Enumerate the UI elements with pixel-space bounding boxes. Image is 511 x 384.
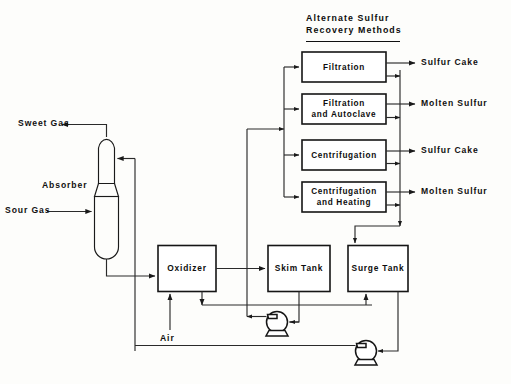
box-label-centrifugation-heating-line1: Centrifugation bbox=[311, 186, 377, 197]
box-label-filtration: Filtration bbox=[302, 52, 386, 82]
equipment-label-oxidizer: Oxidizer bbox=[158, 245, 216, 291]
pump-skim-tank[interactable] bbox=[266, 312, 288, 337]
process-flow-diagram: Alternate Sulfur Recovery Methods Filtra… bbox=[0, 0, 511, 384]
pump-skim-discharge-nozzle bbox=[268, 315, 278, 319]
equipment-label-skim-tank: Skim Tank bbox=[268, 245, 330, 291]
equipment-label-surge-tank: Surge Tank bbox=[348, 245, 408, 291]
pump-surge-discharge-nozzle bbox=[357, 344, 367, 348]
box-label-centrifugation-line1: Centrifugation bbox=[311, 150, 377, 161]
stream-label-product-1: Sulfur Cake bbox=[421, 57, 479, 67]
stream-label-air: Air bbox=[160, 333, 175, 343]
section-heading-line2: Recovery Methods bbox=[306, 24, 416, 36]
stream-label-product-2: Molten Sulfur bbox=[421, 98, 488, 108]
pipe-return-to-surge-tank bbox=[355, 226, 400, 243]
box-label-filtration-and-autoclave: Filtration and Autoclave bbox=[302, 94, 386, 124]
pipe-surge-tank-to-pump bbox=[378, 292, 398, 352]
pump-surge-tank[interactable] bbox=[355, 341, 377, 366]
box-label-filtration-autoclave-line1: Filtration bbox=[323, 98, 365, 109]
stream-label-product-4: Molten Sulfur bbox=[421, 186, 488, 196]
absorber-lower-section bbox=[95, 197, 119, 260]
section-heading-line1: Alternate Sulfur bbox=[306, 12, 416, 24]
absorber-upper-section bbox=[99, 139, 115, 183]
pump-surge-base bbox=[355, 360, 377, 366]
equipment-label-absorber: Absorber bbox=[42, 180, 87, 190]
pipe-rich-solution-to-oxidizer bbox=[107, 259, 156, 276]
pipe-skim-tank-to-pump bbox=[289, 292, 299, 323]
section-heading: Alternate Sulfur Recovery Methods bbox=[306, 12, 416, 36]
stream-label-sour-gas: Sour Gas bbox=[5, 205, 50, 215]
absorber-transition-section bbox=[95, 184, 119, 197]
box-label-filtration-autoclave-line2: and Autoclave bbox=[312, 109, 377, 120]
box-label-centrifugation-and-heating: Centrifugation and Heating bbox=[302, 182, 386, 212]
pump-skim-base bbox=[266, 331, 288, 337]
stream-label-sweet-gas: Sweet Gas bbox=[18, 118, 70, 128]
box-label-filtration-line1: Filtration bbox=[323, 62, 365, 73]
box-label-centrifugation-heating-line2: and Heating bbox=[317, 197, 372, 208]
stream-label-product-3: Sulfur Cake bbox=[421, 145, 479, 155]
box-label-centrifugation: Centrifugation bbox=[302, 140, 386, 170]
